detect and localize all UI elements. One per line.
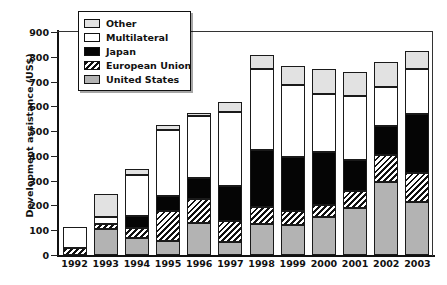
bar-segment-japan-2002 (374, 126, 398, 155)
bar-segment-multilateral-2003 (405, 69, 429, 114)
legend-item-european-union: European Union (84, 58, 185, 72)
y-tick-label: 200 (17, 200, 49, 211)
bar-segment-multilateral-1996 (187, 116, 211, 179)
bar-1994[interactable] (125, 169, 149, 255)
bar-2001[interactable] (343, 72, 367, 255)
bar-segment-european-union-1992 (63, 248, 87, 255)
y-tick-mark (51, 82, 58, 83)
bar-1995[interactable] (156, 125, 180, 255)
legend-label-other: Other (106, 18, 137, 29)
legend-label-european-union: European Union (106, 60, 191, 71)
bar-1998[interactable] (250, 55, 274, 255)
bar-segment-other-1996 (187, 113, 211, 116)
bar-segment-multilateral-1993 (94, 217, 118, 224)
bar-segment-other-1998 (250, 55, 274, 70)
bar-segment-united-states-2000 (312, 217, 336, 255)
bar-segment-united-states-1994 (125, 238, 149, 255)
bar-segment-japan-2003 (405, 114, 429, 173)
y-tick-mark (51, 181, 58, 182)
bar-segment-european-union-1994 (125, 228, 149, 238)
bar-segment-other-2001 (343, 72, 367, 96)
bar-segment-european-union-1998 (250, 207, 274, 223)
bar-segment-multilateral-2000 (312, 94, 336, 152)
bar-segment-european-union-1996 (187, 199, 211, 223)
bar-segment-japan-1998 (250, 150, 274, 207)
bar-1992[interactable] (63, 227, 87, 255)
bar-segment-japan-1999 (281, 157, 305, 211)
bar-segment-other-2002 (374, 62, 398, 87)
bar-segment-japan-1996 (187, 178, 211, 199)
legend-swatch-other-icon (84, 19, 100, 28)
bar-segment-other-2003 (405, 51, 429, 70)
bar-segment-other-2000 (312, 69, 336, 94)
bar-segment-united-states-1997 (218, 242, 242, 255)
bar-segment-multilateral-1992 (63, 227, 87, 248)
bar-segment-european-union-1997 (218, 221, 242, 242)
bar-segment-japan-1997 (218, 186, 242, 221)
bar-2000[interactable] (312, 69, 336, 255)
bar-segment-multilateral-2001 (343, 96, 367, 160)
bar-segment-other-1997 (218, 102, 242, 112)
legend-label-united-states: United States (106, 74, 179, 85)
y-tick-label: 700 (17, 76, 49, 87)
y-tick-mark (51, 205, 58, 206)
bar-segment-multilateral-1998 (250, 69, 274, 150)
legend-swatch-united-states-icon (84, 75, 100, 84)
bar-segment-united-states-2002 (374, 182, 398, 255)
bar-segment-japan-1995 (156, 196, 180, 211)
bar-segment-japan-1994 (125, 216, 149, 228)
legend-label-multilateral: Multilateral (106, 32, 168, 43)
y-tick-mark (51, 156, 58, 157)
bar-1999[interactable] (281, 66, 305, 255)
bar-segment-multilateral-1995 (156, 130, 180, 196)
bar-segment-multilateral-2002 (374, 87, 398, 126)
stacked-bar-chart: Development assistance (US$) 01002003004… (0, 0, 447, 285)
bar-segment-european-union-2003 (405, 173, 429, 202)
bar-segment-japan-2001 (343, 160, 367, 191)
bar-segment-japan-2000 (312, 152, 336, 206)
bar-segment-european-union-1995 (156, 211, 180, 240)
y-tick-label: 0 (17, 250, 49, 261)
bar-segment-multilateral-1994 (125, 175, 149, 216)
bar-segment-united-states-1998 (250, 224, 274, 255)
bar-2003[interactable] (405, 51, 429, 255)
legend-item-japan: Japan (84, 44, 185, 58)
legend-swatch-japan-icon (84, 47, 100, 56)
legend-item-multilateral: Multilateral (84, 30, 185, 44)
bar-segment-european-union-2000 (312, 205, 336, 217)
y-tick-mark (51, 106, 58, 107)
legend-swatch-european-union-icon (84, 61, 100, 70)
y-tick-label: 800 (17, 51, 49, 62)
bar-segment-multilateral-1997 (218, 112, 242, 186)
bar-segment-united-states-1993 (94, 229, 118, 255)
bar-2002[interactable] (374, 62, 398, 255)
y-tick-mark (51, 255, 58, 256)
bar-1997[interactable] (218, 102, 242, 255)
y-tick-label: 900 (17, 27, 49, 38)
chart-legend: Other Multilateral Japan European Union … (78, 11, 191, 91)
bar-segment-european-union-1993 (94, 224, 118, 229)
bar-segment-other-1999 (281, 66, 305, 84)
bar-segment-united-states-2003 (405, 202, 429, 255)
legend-item-united-states: United States (84, 72, 185, 86)
bar-1996[interactable] (187, 113, 211, 255)
bar-segment-united-states-1999 (281, 225, 305, 255)
y-tick-mark (51, 57, 58, 58)
x-axis-line (57, 255, 435, 257)
bar-segment-multilateral-1999 (281, 85, 305, 158)
legend-swatch-multilateral-icon (84, 33, 100, 42)
bar-segment-united-states-1995 (156, 241, 180, 255)
y-tick-label: 500 (17, 126, 49, 137)
bar-1993[interactable] (94, 194, 118, 255)
x-tick-label-2003: 2003 (397, 258, 437, 269)
y-tick-mark (51, 230, 58, 231)
bar-segment-united-states-1996 (187, 223, 211, 255)
y-tick-label: 100 (17, 225, 49, 236)
legend-label-japan: Japan (106, 46, 136, 57)
bar-segment-european-union-1999 (281, 211, 305, 225)
y-tick-label: 300 (17, 175, 49, 186)
bar-segment-european-union-2001 (343, 191, 367, 208)
y-tick-label: 400 (17, 150, 49, 161)
bar-segment-united-states-2001 (343, 208, 367, 255)
bar-segment-other-1993 (94, 194, 118, 217)
